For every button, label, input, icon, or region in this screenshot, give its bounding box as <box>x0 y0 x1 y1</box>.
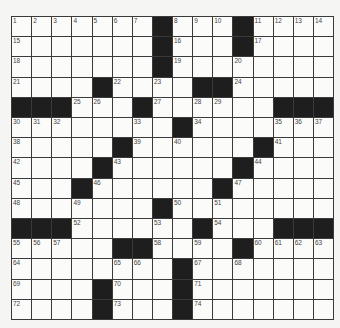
grid-cell[interactable] <box>32 259 51 278</box>
grid-cell[interactable] <box>32 280 51 299</box>
grid-cell[interactable]: 31 <box>32 118 51 137</box>
grid-cell[interactable] <box>193 37 212 56</box>
grid-cell[interactable] <box>113 199 132 218</box>
grid-cell[interactable] <box>93 219 112 238</box>
grid-cell[interactable]: 23 <box>153 78 172 97</box>
grid-cell[interactable] <box>113 98 132 117</box>
grid-cell[interactable]: 26 <box>93 98 112 117</box>
grid-cell[interactable] <box>294 259 313 278</box>
grid-cell[interactable] <box>32 37 51 56</box>
grid-cell[interactable] <box>173 98 192 117</box>
grid-cell[interactable]: 15 <box>12 37 31 56</box>
grid-cell[interactable] <box>213 300 232 319</box>
grid-cell[interactable]: 74 <box>193 300 212 319</box>
grid-cell[interactable]: 44 <box>254 158 273 177</box>
grid-cell[interactable] <box>294 300 313 319</box>
grid-cell[interactable] <box>72 138 91 157</box>
grid-cell[interactable] <box>294 158 313 177</box>
grid-cell[interactable] <box>314 138 333 157</box>
grid-cell[interactable] <box>72 118 91 137</box>
grid-cell[interactable] <box>254 179 273 198</box>
grid-cell[interactable] <box>93 239 112 258</box>
grid-cell[interactable] <box>314 78 333 97</box>
grid-cell[interactable] <box>52 199 71 218</box>
grid-cell[interactable] <box>153 179 172 198</box>
grid-cell[interactable] <box>52 280 71 299</box>
grid-cell[interactable]: 12 <box>274 17 293 36</box>
grid-cell[interactable] <box>32 158 51 177</box>
grid-cell[interactable] <box>113 57 132 76</box>
grid-cell[interactable] <box>72 37 91 56</box>
grid-cell[interactable]: 54 <box>213 219 232 238</box>
grid-cell[interactable] <box>193 199 212 218</box>
grid-cell[interactable]: 56 <box>32 239 51 258</box>
grid-cell[interactable]: 24 <box>233 78 252 97</box>
grid-cell[interactable]: 14 <box>314 17 333 36</box>
grid-cell[interactable]: 50 <box>173 199 192 218</box>
grid-cell[interactable] <box>213 138 232 157</box>
grid-cell[interactable]: 16 <box>173 37 192 56</box>
grid-cell[interactable] <box>52 259 71 278</box>
grid-cell[interactable]: 18 <box>12 57 31 76</box>
grid-cell[interactable]: 13 <box>294 17 313 36</box>
grid-cell[interactable] <box>314 57 333 76</box>
grid-cell[interactable] <box>113 219 132 238</box>
grid-cell[interactable] <box>254 199 273 218</box>
grid-cell[interactable]: 32 <box>52 118 71 137</box>
grid-cell[interactable]: 49 <box>72 199 91 218</box>
grid-cell[interactable]: 61 <box>274 239 293 258</box>
grid-cell[interactable] <box>113 118 132 137</box>
grid-cell[interactable] <box>254 300 273 319</box>
grid-cell[interactable]: 3 <box>52 17 71 36</box>
grid-cell[interactable] <box>72 78 91 97</box>
grid-cell[interactable] <box>72 300 91 319</box>
grid-cell[interactable] <box>173 158 192 177</box>
grid-cell[interactable] <box>294 179 313 198</box>
grid-cell[interactable]: 64 <box>12 259 31 278</box>
grid-cell[interactable] <box>133 179 152 198</box>
grid-cell[interactable]: 47 <box>233 179 252 198</box>
grid-cell[interactable] <box>93 118 112 137</box>
grid-cell[interactable]: 70 <box>113 280 132 299</box>
grid-cell[interactable] <box>72 57 91 76</box>
grid-cell[interactable] <box>32 199 51 218</box>
grid-cell[interactable] <box>72 239 91 258</box>
grid-cell[interactable] <box>72 259 91 278</box>
grid-cell[interactable]: 65 <box>113 259 132 278</box>
grid-cell[interactable] <box>274 158 293 177</box>
grid-cell[interactable] <box>93 199 112 218</box>
grid-cell[interactable] <box>93 259 112 278</box>
grid-cell[interactable]: 62 <box>294 239 313 258</box>
grid-cell[interactable]: 60 <box>254 239 273 258</box>
grid-cell[interactable]: 42 <box>12 158 31 177</box>
grid-cell[interactable]: 29 <box>213 98 232 117</box>
grid-cell[interactable]: 67 <box>193 259 212 278</box>
grid-cell[interactable] <box>274 199 293 218</box>
grid-cell[interactable]: 45 <box>12 179 31 198</box>
grid-cell[interactable] <box>233 199 252 218</box>
grid-cell[interactable] <box>193 57 212 76</box>
grid-cell[interactable]: 41 <box>274 138 293 157</box>
grid-cell[interactable] <box>274 37 293 56</box>
grid-cell[interactable]: 19 <box>173 57 192 76</box>
grid-cell[interactable] <box>133 300 152 319</box>
grid-cell[interactable]: 40 <box>173 138 192 157</box>
grid-cell[interactable]: 22 <box>113 78 132 97</box>
grid-cell[interactable] <box>93 37 112 56</box>
grid-cell[interactable] <box>274 78 293 97</box>
grid-cell[interactable] <box>213 239 232 258</box>
grid-cell[interactable] <box>274 57 293 76</box>
grid-cell[interactable] <box>294 138 313 157</box>
grid-cell[interactable]: 48 <box>12 199 31 218</box>
grid-cell[interactable]: 55 <box>12 239 31 258</box>
grid-cell[interactable] <box>32 78 51 97</box>
grid-cell[interactable] <box>153 138 172 157</box>
grid-cell[interactable] <box>233 300 252 319</box>
grid-cell[interactable]: 53 <box>153 219 172 238</box>
grid-cell[interactable] <box>133 199 152 218</box>
grid-cell[interactable]: 28 <box>193 98 212 117</box>
grid-cell[interactable]: 73 <box>113 300 132 319</box>
grid-cell[interactable] <box>52 57 71 76</box>
grid-cell[interactable]: 63 <box>314 239 333 258</box>
grid-cell[interactable] <box>173 239 192 258</box>
